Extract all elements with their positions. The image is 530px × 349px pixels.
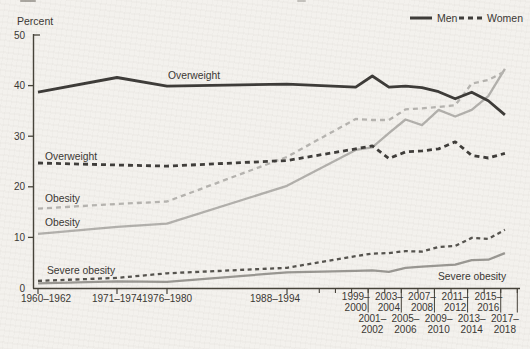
legend-men-label: Men xyxy=(437,12,458,24)
y-axis-tick-label: 0 xyxy=(19,283,25,294)
y-axis-tick-label: 10 xyxy=(14,232,26,243)
annotation-severe-obesity-men: Severe obesity xyxy=(438,271,507,282)
annotation-overweight-women: Overweight xyxy=(45,151,97,162)
x-axis-label: 2001– xyxy=(358,313,386,324)
x-axis-label: 2010 xyxy=(427,324,450,335)
annotation-obesity-men: Obesity xyxy=(45,217,81,228)
x-axis-label: 2002 xyxy=(361,324,384,335)
x-axis-label: 2017– xyxy=(491,313,519,324)
series-line-overweight-men xyxy=(38,76,505,115)
x-axis-label: 2009– xyxy=(425,313,453,324)
annotation-obesity-women: Obesity xyxy=(45,193,81,204)
annotation-overweight-men: Overweight xyxy=(168,70,220,81)
x-axis-label: 1976–1980 xyxy=(142,293,192,304)
chart-overlay: Percent Men Women Overweight Overweight … xyxy=(17,12,523,282)
x-axis-label: 1971–1974 xyxy=(92,293,142,304)
scan-artifact xyxy=(297,0,306,2)
x-axis-label: 2014 xyxy=(461,324,484,335)
x-axis-label: 2013– xyxy=(458,313,486,324)
x-axis-label: 2012 xyxy=(444,302,467,313)
x-axis-label: 2018 xyxy=(494,324,517,335)
x-axis-label: 1988–1994 xyxy=(250,293,300,304)
x-axis-label: 2007– xyxy=(408,291,436,302)
legend-women-label: Women xyxy=(487,12,523,24)
series-line-overweight-women xyxy=(38,142,505,166)
x-axis-label: 2000 xyxy=(345,302,368,313)
series-line-obesity-men xyxy=(38,69,505,234)
x-axis-label: 1999– xyxy=(342,291,370,302)
x-axis-label: 2003– xyxy=(375,291,403,302)
y-axis-tick-label: 20 xyxy=(14,181,26,192)
y-axis-tick-label: 30 xyxy=(14,131,26,142)
y-axis-tick-label: 40 xyxy=(14,80,26,91)
x-axis-label: 2008 xyxy=(411,302,434,313)
y-axis-tick-label: 50 xyxy=(14,30,26,41)
x-axis-label: 2011– xyxy=(442,291,470,302)
scan-artifact xyxy=(20,0,36,2)
x-axis-label: 2006 xyxy=(394,324,417,335)
x-axis-label: 2016 xyxy=(477,302,500,313)
y-axis-title: Percent xyxy=(17,15,53,27)
x-axis-label: 2015– xyxy=(474,291,502,302)
overweight-obesity-trend-chart: 010203040501960–19621971–19741976–198019… xyxy=(0,0,530,349)
x-axis-label: 2005– xyxy=(392,313,420,324)
x-axis-label: 2004 xyxy=(378,302,401,313)
legend: Men Women xyxy=(410,12,523,24)
x-axis-label: 1960–1962 xyxy=(21,293,71,304)
scanned-chart-page: 010203040501960–19621971–19741976–198019… xyxy=(0,0,530,349)
annotation-severe-obesity-women: Severe obesity xyxy=(47,265,116,276)
